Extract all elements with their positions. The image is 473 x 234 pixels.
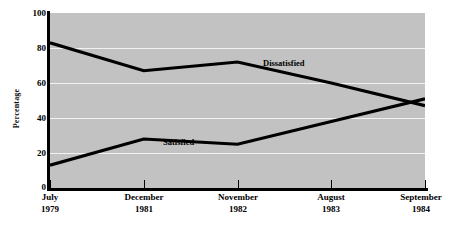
series-label-dissatisfied: Dissatisfied [263, 58, 305, 68]
x-tick [144, 180, 145, 188]
x-axis-label-month: September [400, 192, 442, 202]
x-tick [331, 180, 332, 188]
y-tick-label: 0 [20, 183, 46, 192]
series-line-satisfied [50, 99, 425, 166]
x-tick [50, 180, 51, 188]
x-axis-line [47, 188, 428, 191]
y-tick-label: 80 [20, 44, 46, 53]
x-axis-label-month: November [218, 192, 258, 202]
plot-area: Dissatisfied Satisfied [50, 13, 425, 188]
x-axis-label-month: July [42, 192, 59, 202]
x-axis-label: September 1984 [366, 192, 473, 215]
x-axis-label-month: August [317, 192, 345, 202]
x-axis-label-month: December [125, 192, 164, 202]
y-tick-label: 60 [20, 79, 46, 88]
y-axis-line [47, 11, 50, 190]
line-chart: Percentage 100 80 60 40 20 0 Dissatisfie… [0, 0, 473, 234]
series-line-dissatisfied [50, 43, 425, 106]
x-tick [238, 180, 239, 188]
y-tick-label: 100 [20, 9, 46, 18]
y-tick-label: 40 [20, 114, 46, 123]
x-tick [425, 180, 426, 188]
series-lines [50, 13, 425, 188]
y-tick-label: 20 [20, 149, 46, 158]
x-axis-label-year: 1984 [366, 204, 473, 215]
series-label-satisfied: Satisfied [163, 137, 194, 147]
